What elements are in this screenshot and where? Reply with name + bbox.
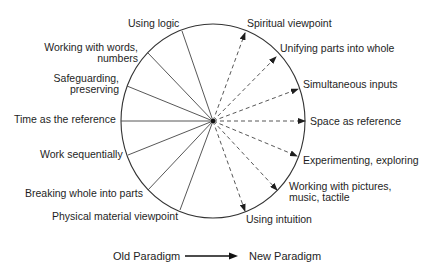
new-paradigm-arrow [213,121,245,211]
new-paradigm-arrow [213,121,277,190]
label-experimenting: Experimenting, exploring [303,155,419,166]
legend-old-paradigm: Old Paradigm [113,250,180,262]
label-time-as-reference: Time as the reference [14,114,116,125]
label-safeguarding-line2: preserving [19,84,119,95]
label-spiritual-viewpoint: Spiritual viewpoint [247,18,332,29]
label-working-with-words: Working with words, numbers [28,42,138,64]
label-safeguarding: Safeguarding, preserving [19,73,119,95]
label-unifying-parts: Unifying parts into whole [280,43,394,54]
label-using-intuition: Using intuition [246,214,312,225]
old-paradigm-spoke [128,121,213,155]
new-paradigm-arrow [213,89,298,121]
label-working-with-pictures-line2: music, tactile [289,192,392,203]
old-paradigm-spoke [127,86,213,121]
label-working-with-words-line2: numbers [28,53,138,64]
old-paradigm-spoke [148,121,213,190]
old-paradigm-spoke [182,31,213,121]
label-space-as-reference: Space as reference [310,116,401,127]
new-paradigm-arrow [213,57,276,121]
new-paradigm-arrow [213,121,297,156]
legend-new-paradigm: New Paradigm [249,250,321,262]
label-using-logic: Using logic [128,18,179,29]
label-work-sequentially: Work sequentially [40,149,123,160]
legend-arrow-head [229,253,238,260]
old-paradigm-spoke [148,53,213,121]
label-working-with-pictures: Working with pictures, music, tactile [289,181,392,203]
label-simultaneous-inputs: Simultaneous inputs [303,79,398,90]
center-hub [211,119,215,123]
label-physical-material: Physical material viewpoint [52,211,178,222]
label-breaking-whole: Breaking whole into parts [25,188,143,199]
new-paradigm-arrow [213,33,245,121]
old-paradigm-spoke [180,121,213,210]
